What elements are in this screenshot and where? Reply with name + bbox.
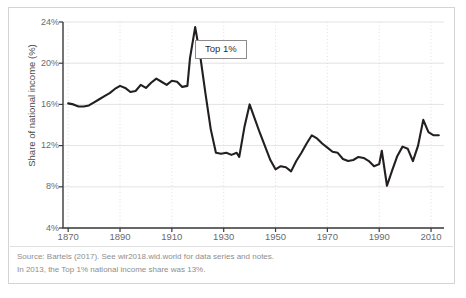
y-axis-title: Share of national income (%) [26, 26, 37, 186]
source-note: Source: Bartels (2017). See wir2018.wid.… [17, 251, 437, 263]
y-axis-tick-labels: 4%8%12%16%20%24% [17, 22, 59, 228]
chart-figure: 4%8%12%16%20%24% Share of national incom… [8, 7, 455, 284]
x-axis-tick-labels: 18701890191019301950197019902010 [63, 232, 444, 246]
x-tick-label: 1990 [354, 232, 404, 242]
footer-divider [10, 246, 453, 247]
x-tick-label: 1930 [199, 232, 249, 242]
footer-notes: Source: Bartels (2017). See wir2018.wid.… [17, 251, 437, 276]
annotation-top-1-percent: Top 1% [195, 40, 247, 59]
x-tick-label: 1870 [43, 232, 93, 242]
x-tick-label: 1950 [251, 232, 301, 242]
x-tick-label: 1910 [147, 232, 197, 242]
x-tick-label: 1970 [302, 232, 352, 242]
x-tick-label: 1890 [95, 232, 145, 242]
x-tick-label: 2010 [406, 232, 456, 242]
data-line-top-1 [68, 27, 439, 186]
data-series-layer [63, 22, 444, 228]
plot-area [63, 22, 444, 228]
fact-note: In 2013, the Top 1% national income shar… [17, 264, 437, 276]
